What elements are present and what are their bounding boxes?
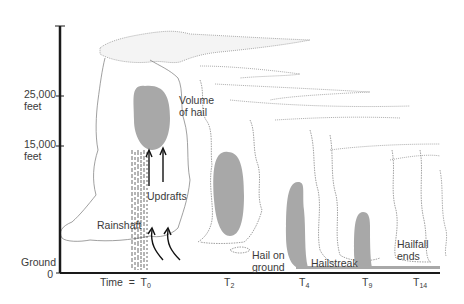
hailfall-ends-line1: Hailfall: [397, 238, 429, 250]
y-label-ground-zero: 0: [21, 268, 53, 280]
hail-on-ground-line2: ground: [252, 261, 285, 273]
x-tick-sub: 9: [368, 282, 372, 289]
hail-volume-t2: [213, 152, 244, 236]
annotation-updrafts: Updrafts: [147, 190, 187, 202]
annotation-hailstreak: Hailstreak: [311, 257, 358, 269]
volume-of-hail-line1: Volume: [179, 94, 214, 106]
hailfall-ends-line2: ends: [397, 250, 429, 262]
hail-on-ground-line1: Hail on: [252, 249, 285, 261]
x-label-t0: Time = T0: [100, 276, 151, 289]
cloud-t14: [440, 170, 447, 256]
y-label-ground-text: Ground: [21, 256, 53, 268]
x-label-t2: T2: [224, 276, 234, 289]
x-axis-prefix: Time =: [100, 276, 141, 288]
annotation-hail-on-ground: Hail on ground: [252, 249, 285, 273]
y-label-15000-value: 15,000: [24, 138, 56, 150]
x-label-t9: T9: [362, 276, 372, 289]
cloud-t0: [60, 58, 190, 241]
x-label-t14: T14: [413, 276, 427, 289]
y-label-ground: Ground 0: [21, 256, 53, 280]
updraft-arrows: [146, 148, 180, 260]
x-tick-sub: 14: [419, 282, 427, 289]
axes: [55, 26, 440, 273]
x-tick-sub: 4: [305, 282, 309, 289]
annotation-rainshaft: Rainshaft: [97, 219, 141, 231]
hail-volume-t0: [134, 86, 170, 150]
annotation-hailfall-ends: Hailfall ends: [397, 238, 429, 262]
y-label-25000: 25,000 feet: [24, 88, 56, 112]
y-label-25000-value: 25,000: [24, 88, 56, 100]
volume-of-hail-line2: of hail: [179, 106, 214, 118]
y-label-25000-unit: feet: [24, 100, 56, 112]
annotation-volume-of-hail: Volume of hail: [179, 94, 214, 118]
x-tick-sub: 0: [147, 282, 151, 289]
rainshaft: [132, 150, 147, 270]
x-tick-sub: 2: [230, 282, 234, 289]
x-label-t4: T4: [299, 276, 309, 289]
y-label-15000: 15,000 feet: [24, 138, 56, 162]
hailstorm-diagram: [0, 0, 464, 304]
hail-volume-t4: [286, 182, 308, 268]
y-label-15000-unit: feet: [24, 150, 56, 162]
